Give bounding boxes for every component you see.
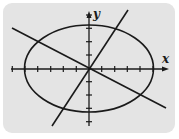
y-axis-label: y xyxy=(92,7,101,21)
x-axis-arrow-icon xyxy=(162,67,169,72)
x-axis-label: x xyxy=(161,52,170,66)
coordinate-diagram: x y xyxy=(0,0,179,139)
